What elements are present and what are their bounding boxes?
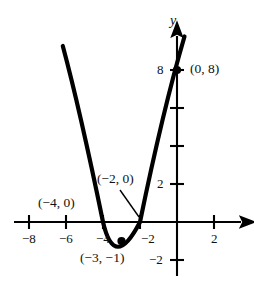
graph-figure: y −8 −6 −4 −2 2 8 2 −2 (0, 8) (−4, 0) (−… (0, 0, 254, 281)
y-tick-label--2: −2 (149, 253, 163, 266)
x-tick-label-2: 2 (211, 232, 218, 245)
y-intercept-annotation: (0, 8) (190, 62, 219, 76)
left-intercept-annotation: (−4, 0) (38, 196, 75, 210)
x-tick-label--6: −6 (59, 232, 73, 245)
point-vertex (117, 237, 125, 245)
y-axis-name-label: y (170, 14, 176, 28)
x-tick-label--2: −2 (141, 232, 155, 245)
x-tick-label--8: −8 (22, 232, 36, 245)
parabola-curve (63, 37, 185, 247)
point-y-intercept (173, 66, 181, 74)
right-intercept-annotation: (−2, 0) (97, 172, 134, 186)
y-tick-label-8: 8 (157, 63, 164, 76)
vertex-annotation: (−3, −1) (80, 251, 124, 265)
right-intercept-leader-line (120, 190, 139, 217)
x-tick-label--4: −4 (96, 232, 110, 245)
y-tick-label-2: 2 (157, 177, 164, 190)
